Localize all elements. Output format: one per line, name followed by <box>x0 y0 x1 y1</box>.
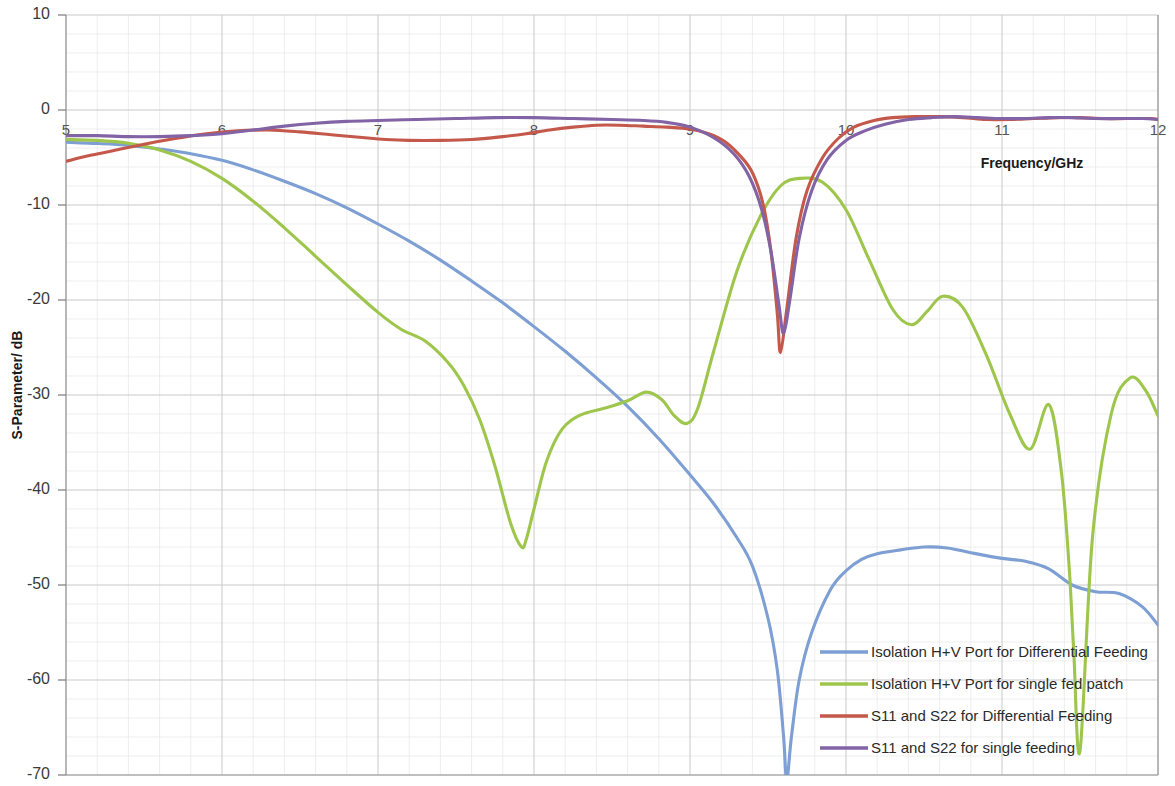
legend-label-3: S11 and S22 for single feeding <box>871 739 1075 756</box>
series-line-1 <box>66 139 1158 753</box>
legend-label-0: Isolation H+V Port for Differential Feed… <box>871 643 1148 660</box>
y-axis-title: S-Parameter/ dB <box>9 331 25 440</box>
x-axis-tick-labels: 56789101112 <box>62 121 1167 138</box>
y-tick-label: -70 <box>27 765 50 782</box>
series-line-3 <box>66 117 1158 334</box>
y-tick-label: -40 <box>27 480 50 497</box>
y-tick-label: 10 <box>32 5 50 22</box>
y-tick-label: -50 <box>27 575 50 592</box>
legend-label-2: S11 and S22 for Differential Feeding <box>871 707 1112 724</box>
y-tick-label: -10 <box>27 195 50 212</box>
y-tick-label: -20 <box>27 290 50 307</box>
chart-canvas: 100-10-20-30-40-50-60-70 56789101112 Iso… <box>0 0 1175 786</box>
y-tick-label: -30 <box>27 385 50 402</box>
x-axis-title: Frequency/GHz <box>981 155 1084 171</box>
y-axis-tick-labels: 100-10-20-30-40-50-60-70 <box>27 5 50 782</box>
x-tick-label: 11 <box>994 121 1010 138</box>
series-line-2 <box>66 117 1158 353</box>
s-parameter-chart: 100-10-20-30-40-50-60-70 56789101112 Iso… <box>0 0 1175 786</box>
legend-label-1: Isolation H+V Port for single fed patch <box>871 675 1123 692</box>
x-tick-label: 12 <box>1150 121 1167 138</box>
x-tick-label: 8 <box>530 121 538 138</box>
x-tick-label: 7 <box>374 121 382 138</box>
y-tick-label: -60 <box>27 670 50 687</box>
y-tick-label: 0 <box>41 100 50 117</box>
legend: Isolation H+V Port for Differential Feed… <box>820 643 1148 756</box>
